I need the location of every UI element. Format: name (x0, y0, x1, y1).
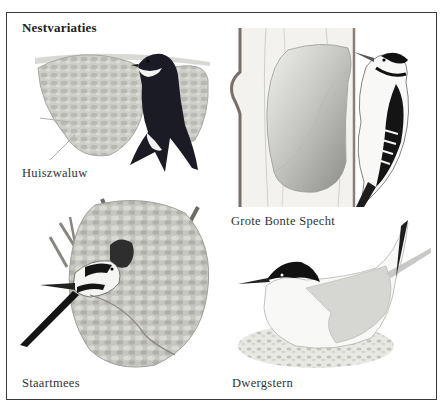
panel-staartmees (15, 195, 220, 375)
woodpecker-nest-illustration (226, 22, 431, 207)
panel-dwergstern (236, 218, 431, 373)
panel-huiszwaluw (30, 40, 215, 180)
swallow-nest-illustration (30, 40, 215, 180)
label-staartmees: Staartmees (22, 376, 80, 391)
page-title: Nestvariaties (22, 20, 97, 36)
label-dwergstern: Dwergstern (232, 376, 293, 391)
little-tern-nest-illustration (236, 218, 431, 373)
label-huiszwaluw: Huiszwaluw (22, 166, 88, 181)
long-tailed-tit-nest-illustration (15, 195, 220, 375)
panel-grote-bonte-specht (226, 22, 431, 207)
